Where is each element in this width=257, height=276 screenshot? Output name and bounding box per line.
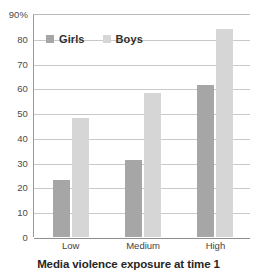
y-tick-label-20: 20 <box>17 182 28 193</box>
y-tick-label-10: 10 <box>17 207 28 218</box>
y-tick-label-90: 90% <box>9 9 28 20</box>
y-tick-label-0: 0 <box>23 232 28 243</box>
bar-high-boys <box>216 29 233 237</box>
legend-item-boys: Boys <box>103 33 143 45</box>
y-tick-label-50: 50 <box>17 108 28 119</box>
legend-label-girls: Girls <box>59 33 85 45</box>
y-tick-label-40: 40 <box>17 132 28 143</box>
legend-swatch-boys-icon <box>103 35 111 43</box>
x-tick-label-low: Low <box>62 240 79 251</box>
legend-swatch-girls-icon <box>46 35 54 43</box>
bar-low-girls <box>53 180 70 237</box>
y-tick-label-70: 70 <box>17 58 28 69</box>
y-tick-label-30: 30 <box>17 157 28 168</box>
legend-item-girls: Girls <box>46 33 85 45</box>
bar-medium-boys <box>144 93 161 237</box>
x-axis-labels: LowMediumHigh <box>33 240 250 256</box>
legend-label-boys: Boys <box>116 33 143 45</box>
bar-medium-girls <box>125 160 142 237</box>
x-tick-label-medium: Medium <box>126 240 160 251</box>
bars-layer <box>35 14 250 237</box>
bar-high-girls <box>197 85 214 237</box>
x-axis-title: Media violence exposure at time 1 <box>0 258 257 270</box>
bar-low-boys <box>72 118 89 237</box>
x-tick-label-high: High <box>206 240 226 251</box>
chart-legend: GirlsBoys <box>46 33 143 45</box>
bar-chart: 90%80706050403020100 GirlsBoys LowMedium… <box>0 0 257 276</box>
y-axis-labels: 90%80706050403020100 <box>0 0 31 276</box>
y-tick-label-80: 80 <box>17 33 28 44</box>
gridline-0 <box>34 238 250 239</box>
y-tick-label-60: 60 <box>17 83 28 94</box>
